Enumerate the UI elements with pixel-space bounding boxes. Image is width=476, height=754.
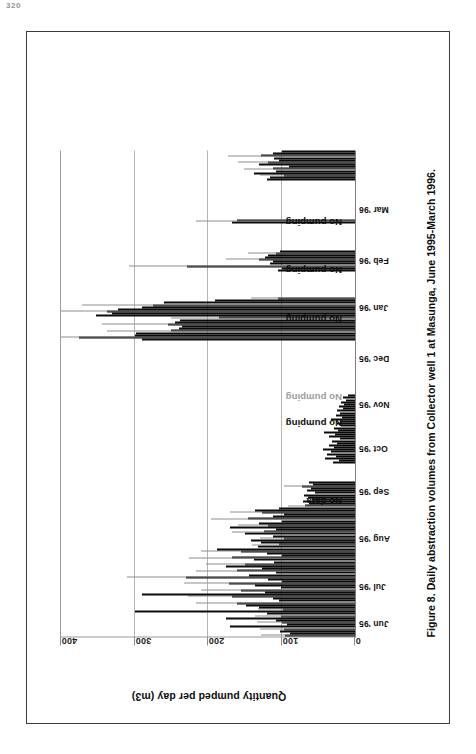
bar — [280, 250, 355, 252]
bar-spike — [248, 252, 355, 253]
y-axis-title-label: Quantity pumped per day (m3) — [131, 691, 286, 703]
bar-spike — [257, 622, 355, 623]
y-axis-tick-label: 100 — [282, 636, 298, 645]
bar-spike — [284, 486, 355, 487]
plot-annotation: No pumping — [285, 391, 341, 402]
bar-spike — [251, 298, 355, 299]
bar-spike — [201, 550, 355, 551]
x-axis-tick-label: Dec '95 — [359, 353, 389, 363]
bar-spike — [196, 602, 355, 603]
plot-annotation: No pumping — [285, 216, 341, 227]
figure-8: Quantity pumped per day (m3) 01002003004… — [27, 32, 451, 725]
bar-spike — [232, 531, 355, 532]
page-number-mark: 320 — [6, 1, 21, 10]
x-axis-tick-label: Jul '95 — [359, 581, 386, 591]
bar-spike — [226, 259, 355, 260]
bar-spike — [61, 311, 355, 312]
bar-spike — [244, 168, 355, 169]
rotated-figure-inner: Quantity pumped per day (m3) 01002003004… — [27, 32, 451, 725]
bar-spike — [228, 155, 355, 156]
x-axis-tick-label: Jun '95 — [359, 618, 389, 628]
bar-spike — [82, 304, 355, 305]
bar-spike — [61, 337, 355, 338]
bar-spike — [188, 596, 355, 597]
bar-spike — [127, 576, 355, 577]
plot-annotation: No pumping — [285, 417, 341, 428]
bar-spike — [260, 628, 355, 629]
x-axis-tick-label: Feb '96 — [359, 256, 389, 266]
plot-annotation: No pumping — [285, 313, 341, 324]
y-axis-tick-label: 300 — [135, 636, 151, 645]
bar-spike — [230, 512, 355, 513]
x-axis-tick-label: Oct '95 — [359, 443, 388, 453]
bar-spike — [189, 557, 355, 558]
bar-spike — [107, 330, 355, 331]
y-axis-tick-label: 400 — [62, 636, 78, 645]
bar-spike — [196, 570, 355, 571]
plot-area: 0100200300400 No dataNo pumpingNo pumpin… — [61, 150, 356, 637]
figure-caption: Figure 8. Daily abstraction volumes from… — [425, 77, 437, 637]
y-axis-tick — [281, 636, 282, 645]
plot-annotation: No pumping — [285, 264, 341, 275]
y-axis-tick — [134, 636, 135, 645]
x-axis-tick-label: Aug '95 — [359, 533, 390, 543]
x-axis-labels: Jun '95Jul '95Aug '95Sep '95Oct '95Nov '… — [357, 150, 417, 637]
bar-spike — [252, 544, 355, 545]
bar-spike — [258, 609, 355, 610]
figure-frame: Quantity pumped per day (m3) 01002003004… — [26, 31, 450, 724]
x-axis-tick-label: Nov '95 — [359, 399, 390, 409]
y-axis-tick-label: 200 — [209, 636, 225, 645]
x-axis-tick-label: Mar '96 — [359, 204, 389, 214]
x-axis-tick-label: Jan '96 — [359, 302, 388, 312]
bar-spike — [201, 589, 355, 590]
bar-spike — [238, 162, 355, 163]
bar-spike — [260, 538, 355, 539]
plot-annotation: No data — [306, 495, 342, 506]
rotated-figure-wrapper: Quantity pumped per day (m3) 01002003004… — [27, 32, 451, 725]
bar-spike — [238, 525, 355, 526]
bar-spike — [184, 583, 355, 584]
bar-spike — [260, 175, 355, 176]
bar-spike — [211, 518, 355, 519]
bar — [348, 394, 355, 396]
x-axis-tick-label: Sep '95 — [359, 486, 389, 496]
bar — [282, 150, 356, 152]
bar-spike — [206, 563, 355, 564]
y-axis-title: Quantity pumped per day (m3) — [61, 689, 356, 705]
bar — [309, 481, 355, 483]
bar-spike — [261, 635, 355, 636]
bar-spike — [255, 615, 355, 616]
